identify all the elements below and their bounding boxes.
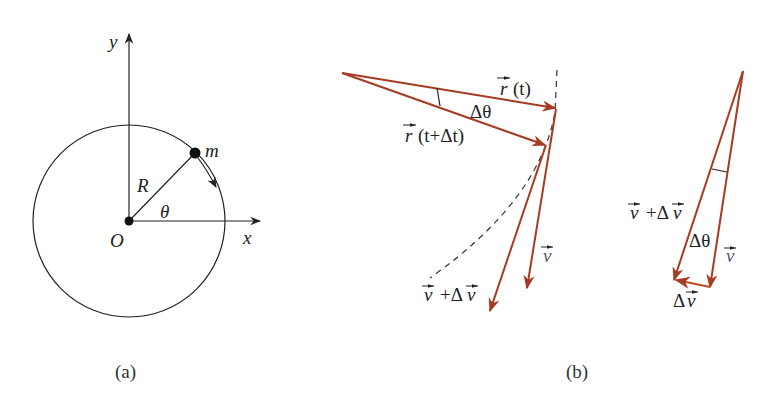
svg-text:r: r — [405, 125, 413, 146]
delta-theta-label-right: Δθ — [689, 230, 710, 251]
figure-b-left: r (t) Δθ r (t+Δt) v v +Δ v — [342, 70, 557, 311]
svg-text:+Δ: +Δ — [440, 284, 463, 305]
caption-a: (a) — [115, 361, 136, 383]
svg-text:Δ: Δ — [673, 290, 685, 311]
svg-text:(t+Δt): (t+Δt) — [418, 125, 464, 147]
mass-dot — [190, 148, 201, 159]
angle-tick — [437, 88, 440, 106]
direction-arrow — [198, 158, 216, 187]
svg-text:v: v — [687, 290, 696, 311]
label-r-t-dt: r (t+Δt) — [403, 125, 464, 147]
label-v: v — [541, 245, 553, 266]
origin-dot — [125, 217, 134, 226]
svg-text:v: v — [424, 284, 433, 305]
label-r-t: r (t) — [497, 78, 531, 100]
svg-text:r: r — [500, 78, 508, 99]
svg-text:(t): (t) — [513, 78, 531, 100]
label-v-plus-dv: v +Δ v — [422, 284, 478, 305]
delta-v-vector — [676, 280, 710, 287]
velocity-vector — [527, 109, 556, 288]
mass-label: m — [205, 140, 219, 161]
svg-text:v: v — [673, 202, 682, 223]
trajectory-arc — [430, 70, 557, 278]
caption-b: (b) — [566, 361, 588, 383]
svg-text:v: v — [630, 202, 639, 223]
angle-tick-right — [712, 169, 727, 172]
figure-b-right: v +Δ v Δθ v Δ v — [628, 71, 743, 311]
angle-label: θ — [160, 201, 169, 222]
radius-label: R — [136, 175, 149, 196]
label-v-plus-dv-right: v +Δ v — [628, 202, 684, 223]
svg-text:+Δ: +Δ — [646, 202, 669, 223]
y-axis-label: y — [107, 31, 118, 52]
label-v-right: v — [724, 245, 736, 266]
figure-canvas: y x O R θ m (a) r (t) Δθ r (t+Δt) v v — [0, 0, 773, 405]
svg-text:v: v — [467, 284, 476, 305]
figure-a: y x O R θ m (a) — [33, 31, 260, 383]
x-axis-label: x — [242, 227, 252, 248]
svg-text:v: v — [543, 245, 552, 266]
delta-theta-label: Δθ — [470, 101, 491, 122]
physics-diagram: y x O R θ m (a) r (t) Δθ r (t+Δt) v v — [0, 0, 773, 405]
label-delta-v: Δ v — [673, 290, 698, 311]
origin-label: O — [110, 230, 124, 251]
